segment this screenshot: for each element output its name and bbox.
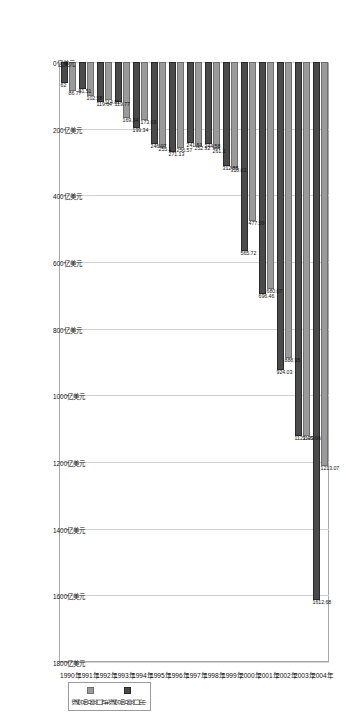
value-tick-200: 200亿美元	[53, 126, 82, 135]
bar-exp-2003年	[295, 62, 302, 436]
value-tick-1000: 1000亿美元	[53, 392, 85, 401]
gridline	[59, 529, 329, 530]
bar-imp-1995年	[159, 62, 166, 147]
value-tick-0: 0亿美元	[53, 59, 75, 68]
value-tick-1800: 1800亿美元	[53, 659, 85, 668]
value-tick-800: 800亿美元	[53, 326, 82, 335]
data-label-exp-1990年: 62	[61, 81, 67, 88]
bar-imp-1992年	[105, 62, 112, 100]
bar-imp-2003年	[303, 62, 310, 436]
data-label-exp-1996年: 271.13	[169, 151, 185, 158]
bar-exp-1996年	[169, 62, 176, 152]
data-label-exp-1995年: 246.07	[151, 143, 167, 150]
gridline	[59, 595, 329, 596]
gridline	[59, 395, 329, 396]
bar-exp-1997年	[187, 62, 194, 143]
bar-exp-2004年	[313, 62, 320, 600]
bar-exp-2002年	[277, 62, 284, 370]
bar-imp-1993年	[123, 62, 130, 118]
bar-imp-2001年	[267, 62, 274, 289]
bar-exp-1995年	[151, 62, 158, 144]
value-tick-1600: 1600亿美元	[53, 592, 85, 601]
data-label-imp-1993年: 169.34	[123, 117, 139, 124]
bar-chart: 86.7762102.5881.51114.81119.64169.34119.…	[0, 0, 345, 717]
bar-imp-1994年	[141, 62, 148, 120]
legend-item-export: 出口商品总额	[110, 687, 146, 706]
bar-imp-2000年	[249, 62, 256, 221]
value-tick-1400: 1400亿美元	[53, 526, 85, 535]
value-tick-600: 600亿美元	[53, 259, 82, 268]
data-label-exp-1997年: 241.51	[187, 141, 203, 148]
data-label-exp-1999年: 312.88	[223, 165, 239, 172]
legend-swatch-export-icon	[125, 687, 132, 694]
data-label-exp-2001年: 696.46	[259, 293, 275, 300]
legend: 出口商品总额 进口商品总额	[68, 682, 151, 711]
bar-imp-1999年	[231, 62, 238, 168]
legend-swatch-import-icon	[88, 687, 95, 694]
data-label-imp-2002年: 888.95	[285, 357, 301, 364]
data-label-exp-1992年: 119.64	[97, 100, 112, 107]
bar-exp-2000年	[241, 62, 248, 251]
data-label-exp-2003年: 1123.46	[295, 435, 313, 442]
legend-label-export: 出口商品总额	[110, 697, 146, 706]
data-label-exp-1998年: 244.58	[205, 142, 221, 149]
data-label-exp-2004年: 1612.68	[313, 598, 332, 605]
bar-imp-1996年	[177, 62, 184, 148]
legend-label-import: 进口商品总额	[73, 697, 109, 706]
bar-exp-2001年	[259, 62, 266, 294]
gridline	[59, 662, 329, 663]
bar-imp-1997年	[195, 62, 202, 146]
data-label-exp-1993年: 119.77	[115, 100, 130, 107]
category-label-2004年: 2004年	[312, 670, 334, 680]
data-label-exp-1991年: 81.51	[79, 88, 92, 95]
data-label-exp-1994年: 199.34	[133, 127, 149, 134]
data-label-imp-2000年: 477.59	[249, 220, 265, 227]
data-label-exp-2002年: 924.03	[277, 369, 293, 376]
bar-imp-1998年	[213, 62, 220, 149]
bar-imp-2002年	[285, 62, 292, 358]
data-label-exp-2000年: 565.72	[241, 249, 257, 256]
data-label-imp-1994年: 173.09	[141, 118, 157, 125]
data-label-imp-2004年: 1213.07	[321, 465, 340, 472]
bar-imp-2004年	[321, 62, 328, 466]
gridline	[59, 462, 329, 463]
value-tick-1200: 1200亿美元	[53, 459, 85, 468]
bar-exp-1993年	[115, 62, 122, 102]
value-tick-400: 400亿美元	[53, 192, 82, 201]
rotated-chart-canvas: 86.7762102.5881.51114.81119.64169.34119.…	[0, 0, 345, 717]
legend-item-import: 进口商品总额	[73, 687, 109, 706]
bar-exp-1991年	[79, 62, 86, 89]
bar-exp-1998年	[205, 62, 212, 144]
